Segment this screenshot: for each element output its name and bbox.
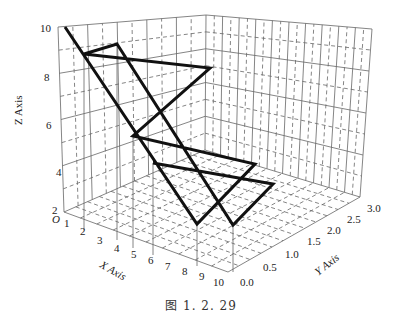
x-tick-1: 1: [64, 218, 70, 229]
grid: [58, 15, 372, 272]
data-line: [65, 27, 273, 225]
y-tick-0.0: 0.0: [240, 277, 254, 288]
x-tick-4: 4: [114, 243, 120, 254]
x-tick-7: 7: [165, 261, 171, 272]
y-tick-2.5: 2.5: [347, 214, 361, 225]
y-tick-2.0: 2.0: [327, 225, 341, 236]
x-tick-5: 5: [131, 249, 137, 260]
z-tick-8: 8: [44, 72, 50, 83]
y-tick-0.5: 0.5: [263, 262, 277, 273]
x-tick-2: 2: [80, 226, 86, 237]
z-axis-title: Z Axis: [12, 95, 24, 125]
y-tick-1.5: 1.5: [307, 236, 321, 247]
x-tick-6: 6: [148, 255, 154, 266]
x-tick-9: 9: [199, 271, 205, 282]
y-tick-3.0: 3.0: [367, 203, 381, 214]
y-tick-1.0: 1.0: [285, 249, 299, 260]
x-tick-10: 10: [213, 277, 224, 288]
z-tick-4: 4: [56, 167, 62, 178]
z-tick-10: 10: [40, 23, 51, 34]
origin-label: O: [52, 214, 60, 225]
z-tick-6: 6: [46, 120, 52, 131]
figure-caption: 图 1. 2. 29: [0, 296, 402, 313]
x-tick-3: 3: [97, 235, 103, 246]
x-tick-8: 8: [182, 266, 188, 277]
